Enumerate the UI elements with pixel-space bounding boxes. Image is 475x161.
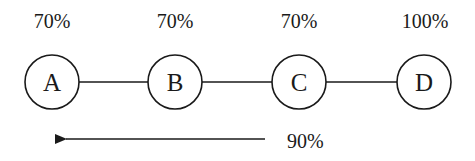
arrow-percent-label: 90% xyxy=(287,130,324,152)
node-a: A xyxy=(25,55,79,109)
node-a-percent: 70% xyxy=(34,10,71,32)
node-b-label: B xyxy=(167,69,184,96)
node-d-label: D xyxy=(415,69,433,96)
node-d: D xyxy=(397,55,451,109)
node-c: C xyxy=(272,55,326,109)
diagram-canvas: 70% 70% 70% 100% A B C D 90% xyxy=(0,0,475,161)
node-c-percent: 70% xyxy=(281,10,318,32)
node-d-percent: 100% xyxy=(402,10,449,32)
node-a-label: A xyxy=(43,69,61,96)
node-b: B xyxy=(148,55,202,109)
node-b-percent: 70% xyxy=(157,10,194,32)
node-c-label: C xyxy=(291,69,308,96)
chain-diagram: 70% 70% 70% 100% A B C D 90% xyxy=(0,0,475,161)
